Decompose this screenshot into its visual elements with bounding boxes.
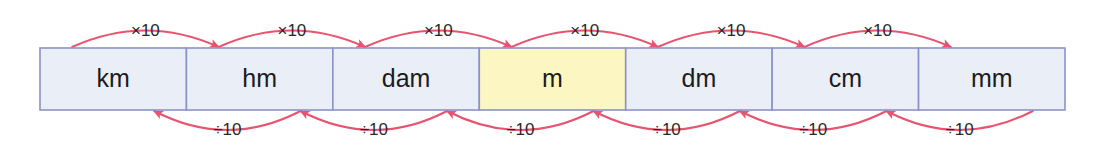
multiply-label-1: ×10 (277, 21, 306, 40)
unit-label-cm: cm (829, 64, 862, 92)
divide-label-3: ÷10 (653, 120, 681, 139)
divide-arrow-group (154, 111, 1033, 130)
divide-label-0: ÷10 (213, 120, 241, 139)
unit-label-mm: mm (971, 64, 1013, 92)
multiply-arrow-group (72, 31, 951, 48)
multiply-label-3: ×10 (570, 21, 599, 40)
multiply-label-5: ×10 (863, 21, 892, 40)
unit-label-m: m (542, 64, 563, 92)
diagram-canvas: kmhmdammdmcmmm×10×10×10×10×10×10÷10÷10÷1… (0, 0, 1099, 163)
multiply-label-4: ×10 (717, 21, 746, 40)
unit-label-dm: dm (682, 64, 717, 92)
divide-label-5: ÷10 (945, 120, 973, 139)
unit-label-km: km (97, 64, 130, 92)
divide-label-2: ÷10 (506, 120, 534, 139)
unit-conversion-diagram: kmhmdammdmcmmm×10×10×10×10×10×10÷10÷10÷1… (0, 0, 1099, 163)
unit-label-hm: hm (242, 64, 277, 92)
divide-label-4: ÷10 (799, 120, 827, 139)
multiply-label-2: ×10 (424, 21, 453, 40)
divide-label-1: ÷10 (360, 120, 388, 139)
multiply-label-0: ×10 (131, 21, 160, 40)
unit-label-dam: dam (382, 64, 431, 92)
